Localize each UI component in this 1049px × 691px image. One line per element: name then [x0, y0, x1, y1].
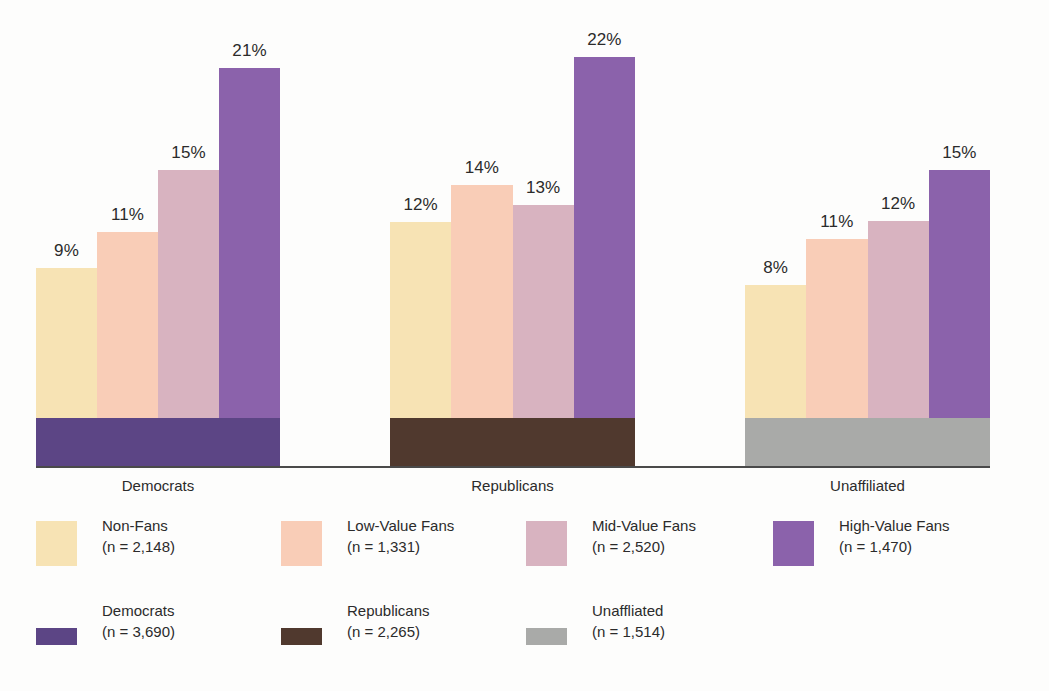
bar-slot-unaffiliated-non-fans: 8%	[745, 0, 806, 466]
legend-item-high-value-fans[interactable]: High-Value Fans (n = 1,470)	[773, 513, 1003, 573]
party-band-unaffiliated	[745, 418, 990, 466]
legend-label-unaffiliated: Unaffliated (n = 1,514)	[592, 600, 665, 642]
bar-value-label: 13%	[513, 178, 574, 198]
bar-group-democrats-bars: 9% 11% 15% 21%	[36, 0, 280, 466]
bar-value-label: 15%	[158, 143, 219, 163]
bar-value-label: 12%	[868, 194, 929, 214]
legend-label-mid-value-fans: Mid-Value Fans (n = 2,520)	[592, 515, 696, 557]
legend-label-non-fans: Non-Fans (n = 2,148)	[102, 515, 175, 557]
bar-slot-republicans-mid-value-fans: 13%	[513, 0, 574, 466]
legend-item-low-value-fans[interactable]: Low-Value Fans (n = 1,331)	[281, 513, 511, 573]
bar-value-label: 9%	[36, 241, 97, 261]
bar-slot-republicans-high-value-fans: 22%	[574, 0, 635, 466]
legend-item-mid-value-fans[interactable]: Mid-Value Fans (n = 2,520)	[526, 513, 756, 573]
legend-label-democrats: Democrats (n = 3,690)	[102, 600, 175, 642]
chart-legend: Non-Fans (n = 2,148) Low-Value Fans (n =…	[0, 505, 1049, 691]
bar-value-label: 22%	[574, 30, 635, 50]
bar-value-label: 21%	[219, 41, 280, 61]
group-caption-democrats: Democrats	[36, 477, 280, 494]
bar-slot-unaffiliated-low-value-fans: 11%	[806, 0, 867, 466]
bar-value-label: 11%	[97, 205, 158, 225]
plot-area: 9% 11% 15% 21%	[0, 0, 1049, 466]
bar-slot-democrats-high-value-fans: 21%	[219, 0, 280, 466]
bar-group-republicans-bars: 12% 14% 13% 22%	[390, 0, 635, 466]
bar-republicans-high-value-fans[interactable]: 22%	[574, 57, 635, 466]
bar-group-unaffiliated: 8% 11% 12% 15%	[745, 0, 990, 466]
legend-swatch-democrats-icon	[36, 628, 77, 645]
legend-swatch-high-value-fans-icon	[773, 521, 814, 566]
bar-value-label: 15%	[929, 143, 990, 163]
bar-group-republicans: 12% 14% 13% 22%	[390, 0, 635, 466]
group-caption-republicans: Republicans	[390, 477, 635, 494]
legend-item-democrats[interactable]: Democrats (n = 3,690)	[36, 598, 266, 658]
bar-slot-republicans-non-fans: 12%	[390, 0, 451, 466]
legend-item-unaffiliated[interactable]: Unaffliated (n = 1,514)	[526, 598, 756, 658]
legend-item-republicans[interactable]: Republicans (n = 2,265)	[281, 598, 511, 658]
chart-figure: 9% 11% 15% 21%	[0, 0, 1049, 691]
bar-group-democrats: 9% 11% 15% 21%	[36, 0, 280, 466]
bar-slot-democrats-low-value-fans: 11%	[97, 0, 158, 466]
bar-democrats-high-value-fans[interactable]: 21%	[219, 68, 280, 466]
x-axis-line	[36, 466, 990, 468]
legend-item-non-fans[interactable]: Non-Fans (n = 2,148)	[36, 513, 266, 573]
bar-slot-unaffiliated-mid-value-fans: 12%	[868, 0, 929, 466]
legend-swatch-unaffiliated-icon	[526, 628, 567, 645]
bar-value-label: 12%	[390, 195, 451, 215]
bar-value-label: 11%	[806, 212, 867, 232]
group-caption-unaffiliated: Unaffiliated	[745, 477, 990, 494]
legend-swatch-low-value-fans-icon	[281, 521, 322, 566]
bar-value-label: 8%	[745, 258, 806, 278]
legend-swatch-republicans-icon	[281, 628, 322, 645]
legend-label-high-value-fans: High-Value Fans (n = 1,470)	[839, 515, 950, 557]
legend-label-low-value-fans: Low-Value Fans (n = 1,331)	[347, 515, 454, 557]
bar-slot-democrats-non-fans: 9%	[36, 0, 97, 466]
party-band-democrats	[36, 418, 280, 466]
legend-swatch-non-fans-icon	[36, 521, 77, 566]
legend-swatch-mid-value-fans-icon	[526, 521, 567, 566]
bar-group-unaffiliated-bars: 8% 11% 12% 15%	[745, 0, 990, 466]
legend-label-republicans: Republicans (n = 2,265)	[347, 600, 430, 642]
party-band-republicans	[390, 418, 635, 466]
bar-slot-unaffiliated-high-value-fans: 15%	[929, 0, 990, 466]
bar-slot-republicans-low-value-fans: 14%	[451, 0, 512, 466]
bar-value-label: 14%	[451, 158, 512, 178]
bar-slot-democrats-mid-value-fans: 15%	[158, 0, 219, 466]
